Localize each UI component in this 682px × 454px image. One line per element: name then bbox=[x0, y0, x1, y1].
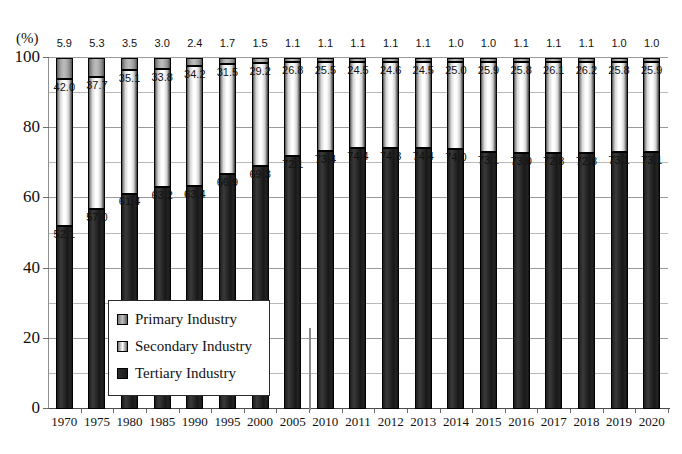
bar-segment-tertiary bbox=[349, 148, 366, 409]
bar-segment-primary bbox=[186, 58, 203, 66]
y-axis-tick-label-100: 100 bbox=[0, 48, 40, 65]
bar-segment-secondary bbox=[88, 77, 105, 209]
y-axis-tick-mark bbox=[43, 268, 49, 269]
bar-2005[interactable] bbox=[284, 57, 301, 409]
bar-segment-primary bbox=[349, 58, 366, 62]
bar-2016[interactable] bbox=[513, 57, 530, 409]
data-label-tertiary-1970: 52.1 bbox=[44, 229, 84, 240]
data-label-tertiary-1990: 63.4 bbox=[175, 189, 215, 200]
bar-segment-primary bbox=[415, 58, 432, 62]
legend: Primary IndustrySecondary IndustryTertia… bbox=[108, 300, 270, 396]
bar-segment-primary bbox=[480, 58, 497, 62]
y-axis-tick-label-0: 0 bbox=[0, 399, 40, 416]
x-axis-tick-mark bbox=[472, 409, 473, 413]
y-axis-tick-mark bbox=[43, 197, 49, 198]
bar-segment-secondary bbox=[154, 69, 171, 188]
y-axis-unit-label: (%) bbox=[16, 30, 39, 47]
x-axis-tick-mark bbox=[179, 409, 180, 413]
bar-segment-tertiary bbox=[513, 153, 530, 409]
bar-segment-primary bbox=[284, 58, 301, 62]
bar-segment-tertiary bbox=[480, 152, 497, 409]
bar-segment-primary bbox=[382, 58, 399, 62]
bar-segment-tertiary bbox=[643, 152, 660, 409]
x-axis-tick-mark bbox=[407, 409, 408, 413]
bar-segment-primary bbox=[643, 58, 660, 62]
bar-1975[interactable] bbox=[88, 57, 105, 409]
data-label-tertiary-2000: 69.3 bbox=[240, 169, 280, 180]
bar-segment-tertiary bbox=[317, 151, 334, 409]
bar-2018[interactable] bbox=[578, 57, 595, 409]
x-axis-tick-mark bbox=[668, 409, 669, 413]
bar-segment-primary bbox=[447, 58, 464, 62]
bar-segment-tertiary bbox=[284, 156, 301, 409]
x-axis-tick-mark bbox=[374, 409, 375, 413]
y-axis-tick-label-40: 40 bbox=[0, 259, 40, 276]
legend-item-primary-industry[interactable]: Primary Industry bbox=[117, 306, 261, 333]
bar-segment-tertiary bbox=[382, 148, 399, 409]
bar-2011[interactable] bbox=[349, 57, 366, 409]
data-label-tertiary-2020: 73.1 bbox=[632, 155, 672, 166]
bar-segment-secondary bbox=[219, 64, 236, 175]
bar-2020[interactable] bbox=[643, 57, 660, 409]
bar-2013[interactable] bbox=[415, 57, 432, 409]
legend-item-secondary-industry[interactable]: Secondary Industry bbox=[117, 333, 261, 360]
bar-2012[interactable] bbox=[382, 57, 399, 409]
data-label-secondary-2020: 25.9 bbox=[632, 65, 672, 76]
bar-segment-secondary bbox=[252, 63, 269, 165]
x-axis-tick-mark bbox=[635, 409, 636, 413]
legend-label: Primary Industry bbox=[135, 311, 237, 328]
y-axis-tick-mark bbox=[43, 57, 49, 58]
y-axis-tick-label-20: 20 bbox=[0, 329, 40, 346]
x-axis-tick-mark bbox=[244, 409, 245, 413]
bar-2015[interactable] bbox=[480, 57, 497, 409]
bar-segment-tertiary bbox=[415, 148, 432, 409]
bar-segment-primary bbox=[252, 58, 269, 63]
x-axis-tick-mark bbox=[211, 409, 212, 413]
bar-segment-primary bbox=[317, 58, 334, 62]
bar-segment-primary bbox=[545, 58, 562, 62]
x-axis-tick-mark bbox=[113, 409, 114, 413]
legend-label: Tertiary Industry bbox=[135, 365, 236, 382]
y-axis-tick-label-60: 60 bbox=[0, 188, 40, 205]
bar-segment-secondary bbox=[186, 66, 203, 186]
bar-segment-primary bbox=[56, 58, 73, 79]
bar-segment-tertiary bbox=[88, 209, 105, 409]
stacked-bar-chart: (%) 020406080100 5.942.052.15.337.757.03… bbox=[0, 0, 682, 454]
x-axis-tick-mark bbox=[570, 409, 571, 413]
y-axis-tick-mark bbox=[43, 408, 49, 409]
bar-2014[interactable] bbox=[447, 57, 464, 409]
x-axis-tick-mark bbox=[81, 409, 82, 413]
data-label-tertiary-1975: 57.0 bbox=[77, 212, 117, 223]
y-axis-tick-mark bbox=[43, 127, 49, 128]
y-axis-tick-mark bbox=[43, 338, 49, 339]
bar-segment-tertiary bbox=[447, 149, 464, 409]
x-axis-tick-mark bbox=[505, 409, 506, 413]
bar-2010[interactable] bbox=[317, 57, 334, 409]
bar-segment-tertiary bbox=[611, 152, 628, 409]
bar-segment-primary bbox=[513, 58, 530, 62]
bar-segment-primary bbox=[219, 58, 236, 64]
x-axis-tick-mark bbox=[276, 409, 277, 413]
x-axis-tick-mark bbox=[603, 409, 604, 413]
bar-segment-tertiary bbox=[545, 153, 562, 409]
bar-segment-primary bbox=[611, 58, 628, 62]
bar-segment-tertiary bbox=[578, 153, 595, 409]
data-label-primary-2020: 1.0 bbox=[632, 38, 672, 49]
primary-industry-swatch bbox=[117, 314, 128, 325]
bar-segment-primary bbox=[121, 58, 138, 70]
bar-segment-primary bbox=[88, 58, 105, 77]
x-axis-label-2020: 2020 bbox=[630, 415, 674, 428]
tertiary-industry-swatch bbox=[117, 368, 128, 379]
x-axis-tick-mark bbox=[342, 409, 343, 413]
x-axis-tick-mark bbox=[146, 409, 147, 413]
bar-segment-tertiary bbox=[56, 226, 73, 409]
bar-segment-secondary bbox=[121, 70, 138, 193]
x-axis-tick-mark bbox=[440, 409, 441, 413]
bar-segment-primary bbox=[578, 58, 595, 62]
legend-item-tertiary-industry[interactable]: Tertiary Industry bbox=[117, 360, 261, 387]
bar-segment-primary bbox=[154, 58, 171, 69]
bar-2019[interactable] bbox=[611, 57, 628, 409]
bar-2017[interactable] bbox=[545, 57, 562, 409]
series-break-divider bbox=[309, 328, 311, 410]
x-axis-tick-mark bbox=[537, 409, 538, 413]
